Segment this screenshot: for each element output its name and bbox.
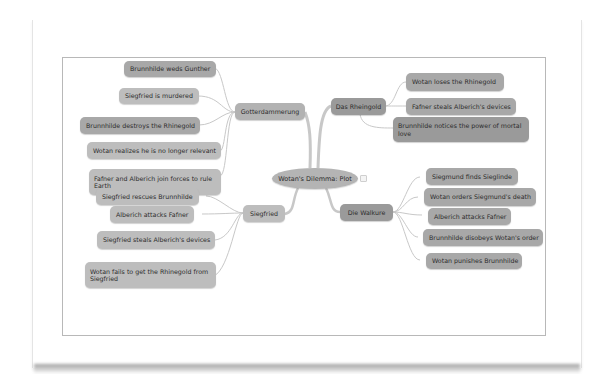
leaf-label: Fafner steals Alberich's devices <box>412 103 511 111</box>
leaf-label: Brunnhilde notices the power of mortal l… <box>398 122 524 137</box>
leaf-label: Wotan orders Siegmund's death <box>430 193 531 201</box>
leaf-node[interactable]: Wotan realizes he is no longer relevant <box>87 142 221 159</box>
leaf-label: Siegfried is murdered <box>125 92 193 100</box>
leaf-label: Brunnhilde weds Gunther <box>130 65 210 73</box>
leaf-label: Alberich attacks Fafner <box>116 211 188 219</box>
leaf-label: Wotan punishes Brunnhilde <box>432 257 518 265</box>
central-topic-label: Wotan's Dilemma: Plot <box>278 175 352 183</box>
branch-das-rheingold[interactable]: Das Rheingold <box>331 98 386 115</box>
leaf-node[interactable]: Siegfried steals Alberich's devices <box>97 231 215 249</box>
note-icon[interactable] <box>360 175 367 182</box>
leaf-label: Wotan realizes he is no longer relevant <box>93 147 216 155</box>
leaf-node[interactable]: Wotan fails to get the Rhinegold from Si… <box>85 262 216 288</box>
leaf-node[interactable]: Brunnhilde weds Gunther <box>124 61 216 77</box>
leaf-node[interactable]: Brunnhilde disobeys Wotan's order <box>423 229 543 246</box>
leaf-node[interactable]: Brunnhilde destroys the Rhinegold <box>80 117 200 134</box>
leaf-label: Siegfried rescues Brunnhilde <box>102 193 193 201</box>
leaf-node[interactable]: Alberich attacks Fafner <box>110 206 194 223</box>
central-topic[interactable]: Wotan's Dilemma: Plot <box>272 168 358 189</box>
leaf-node[interactable]: Brunnhilde notices the power of mortal l… <box>393 117 529 142</box>
leaf-node[interactable]: Wotan loses the Rhinegold <box>406 73 504 91</box>
leaf-node[interactable]: Fafner steals Alberich's devices <box>406 98 516 115</box>
branch-gotterdammerung[interactable]: Gotterdammerung <box>235 103 305 120</box>
leaf-node[interactable]: Siegfried is murdered <box>119 88 199 104</box>
branch-die-walkure[interactable]: Die Walkure <box>340 204 393 221</box>
leaf-node[interactable]: Siegmund finds Sieglinde <box>426 168 518 185</box>
leaf-node[interactable]: Alberich attacks Fafner <box>428 208 511 225</box>
leaf-label: Siegfried steals Alberich's devices <box>103 236 210 244</box>
branch-label: Das Rheingold <box>336 103 382 111</box>
branch-siegfried[interactable]: Siegfried <box>243 205 285 222</box>
branch-label: Die Walkure <box>348 209 386 217</box>
leaf-label: Brunnhilde disobeys Wotan's order <box>429 234 539 242</box>
leaf-label: Alberich attacks Fafner <box>434 213 506 221</box>
leaf-node[interactable]: Siegfried rescues Brunnhilde <box>96 188 199 205</box>
leaf-label: Brunnhilde destroys the Rhinegold <box>86 122 195 130</box>
page-shadow <box>34 364 580 374</box>
branch-label: Gotterdammerung <box>241 108 300 116</box>
leaf-label: Wotan fails to get the Rhinegold from Si… <box>90 268 211 283</box>
branch-label: Siegfried <box>250 210 278 218</box>
leaf-node[interactable]: Wotan orders Siegmund's death <box>424 188 536 206</box>
leaf-node[interactable]: Wotan punishes Brunnhilde <box>426 253 522 269</box>
leaf-label: Siegmund finds Sieglinde <box>432 173 512 181</box>
leaf-label: Wotan loses the Rhinegold <box>412 78 496 86</box>
